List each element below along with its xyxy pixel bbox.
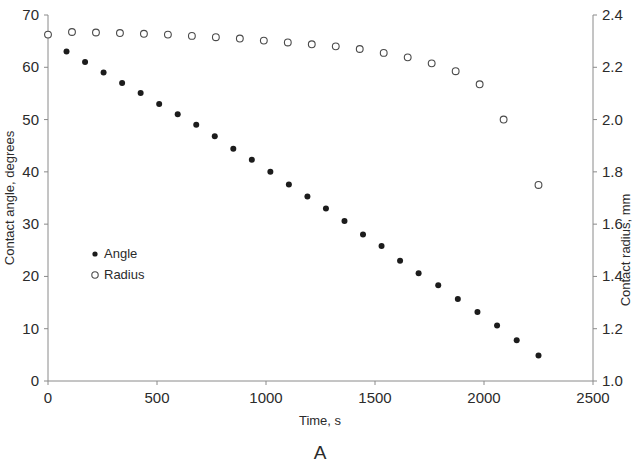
- data-point: [536, 352, 542, 358]
- svg-text:2.4: 2.4: [602, 6, 623, 23]
- data-point: [230, 146, 236, 152]
- svg-text:2000: 2000: [467, 389, 500, 406]
- svg-text:Angle: Angle: [104, 246, 137, 261]
- data-point: [260, 37, 267, 44]
- data-point: [69, 29, 76, 36]
- data-point: [212, 34, 219, 41]
- data-point: [156, 101, 162, 107]
- data-point: [494, 323, 500, 329]
- svg-text:10: 10: [22, 320, 39, 337]
- data-point: [249, 157, 255, 163]
- data-point: [474, 309, 480, 315]
- svg-text:A: A: [314, 442, 327, 463]
- data-point: [304, 193, 310, 199]
- data-point: [284, 39, 291, 46]
- data-point: [514, 337, 520, 343]
- svg-text:0: 0: [44, 389, 52, 406]
- data-point: [476, 81, 483, 88]
- svg-text:30: 30: [22, 215, 39, 232]
- svg-text:1000: 1000: [249, 389, 282, 406]
- svg-text:1500: 1500: [358, 389, 391, 406]
- data-point: [267, 169, 273, 175]
- svg-text:2500: 2500: [576, 389, 609, 406]
- svg-text:0: 0: [31, 372, 39, 389]
- data-point: [356, 46, 363, 53]
- svg-text:Contact angle, degrees: Contact angle, degrees: [2, 130, 17, 265]
- chart-labels: 050010001500200025000102030405060701.01.…: [2, 6, 633, 463]
- svg-text:70: 70: [22, 6, 39, 23]
- svg-text:50: 50: [22, 111, 39, 128]
- svg-text:2.2: 2.2: [602, 58, 623, 75]
- chart-axes: [44, 15, 597, 385]
- svg-text:40: 40: [22, 163, 39, 180]
- data-point: [360, 232, 366, 238]
- data-point: [165, 31, 172, 38]
- data-point: [435, 282, 441, 288]
- data-point: [45, 31, 52, 38]
- svg-text:2.0: 2.0: [602, 111, 623, 128]
- svg-text:1.0: 1.0: [602, 372, 623, 389]
- svg-text:500: 500: [144, 389, 169, 406]
- data-point: [379, 243, 385, 249]
- svg-text:1.2: 1.2: [602, 320, 623, 337]
- data-point: [404, 54, 411, 61]
- legend-marker-angle: [92, 251, 97, 256]
- data-point: [236, 35, 243, 42]
- data-point: [380, 50, 387, 57]
- data-point: [119, 80, 125, 86]
- svg-text:1.8: 1.8: [602, 163, 623, 180]
- data-point: [535, 182, 542, 189]
- data-point: [193, 122, 199, 128]
- data-point: [175, 111, 181, 117]
- svg-text:20: 20: [22, 267, 39, 284]
- data-point: [117, 30, 124, 37]
- data-point: [286, 181, 292, 187]
- figure-panel-a: 050010001500200025000102030405060701.01.…: [0, 0, 643, 466]
- legend-marker-radius: [92, 272, 98, 278]
- data-point: [188, 33, 195, 40]
- data-point: [416, 270, 422, 276]
- data-point: [82, 59, 88, 65]
- data-point: [141, 30, 148, 37]
- data-point: [341, 218, 347, 224]
- data-point: [64, 49, 70, 55]
- data-point: [332, 43, 339, 50]
- svg-text:Time, s: Time, s: [299, 413, 342, 428]
- data-point: [500, 116, 507, 123]
- data-point: [93, 29, 100, 36]
- series-radius: [45, 29, 542, 189]
- data-point: [455, 296, 461, 302]
- data-point: [397, 258, 403, 264]
- data-point: [452, 68, 459, 75]
- data-point: [428, 60, 435, 67]
- svg-text:Contact radius, mm: Contact radius, mm: [618, 194, 633, 307]
- data-point: [323, 205, 329, 211]
- data-point: [212, 133, 218, 139]
- scatter-chart: 050010001500200025000102030405060701.01.…: [0, 0, 643, 466]
- data-point: [101, 70, 107, 76]
- chart-data-points: [45, 29, 542, 359]
- series-angle: [45, 31, 542, 358]
- svg-text:Radius: Radius: [104, 267, 145, 282]
- svg-text:60: 60: [22, 58, 39, 75]
- data-point: [138, 90, 144, 96]
- data-point: [308, 41, 315, 48]
